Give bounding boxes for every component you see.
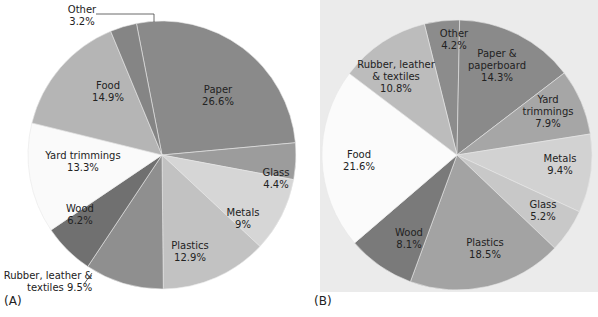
- pie-chart-b: Other 4.2% Paper & paperboard 14.3% Yard…: [305, 0, 598, 317]
- slice-value: 5.2%: [529, 211, 556, 223]
- slice-value: textiles 9.5%: [4, 282, 93, 294]
- slice-label-glass: Glass 4.4%: [262, 167, 289, 191]
- slice-value: 9%: [227, 219, 260, 231]
- slice-name: Yard trimmings: [45, 150, 120, 162]
- slice-name: Food: [343, 149, 375, 161]
- slice-value: 13.3%: [45, 162, 120, 174]
- slice-value: 10.8%: [357, 83, 435, 95]
- slice-label-paper: Paper 26.6%: [202, 84, 234, 108]
- slice-value: 8.1%: [395, 239, 423, 251]
- slice-value: 6.2%: [66, 215, 94, 227]
- slice-value: 14.3%: [468, 72, 526, 84]
- slice-name: Glass: [262, 167, 289, 179]
- slice-label-food: Food 21.6%: [343, 149, 375, 173]
- slice-name: Other: [68, 4, 96, 16]
- slice-value: 4.2%: [440, 40, 468, 52]
- slice-name: Glass: [529, 199, 556, 211]
- slice-value: 21.6%: [343, 161, 375, 173]
- slice-name: Metals: [227, 207, 260, 219]
- slice-value: 12.9%: [171, 252, 209, 264]
- panel-label-b: (B): [314, 294, 332, 308]
- slice-value: 7.9%: [523, 118, 574, 130]
- slice-value: 18.5%: [466, 249, 504, 261]
- slice-label-paper-paperboard: Paper & paperboard 14.3%: [468, 48, 526, 84]
- slice-name: Food: [92, 80, 124, 92]
- slice-name: Paper: [202, 84, 234, 96]
- slice-name: Yard: [523, 94, 574, 106]
- slice-value: 26.6%: [202, 96, 234, 108]
- slice-value: 4.4%: [262, 179, 289, 191]
- slice-name: Metals: [544, 153, 577, 165]
- pie-chart-a: Paper 26.6% Glass 4.4% Metals 9% Plastic…: [0, 0, 305, 317]
- slice-label-wood: Wood 6.2%: [66, 203, 94, 227]
- slice-name: Rubber, leather: [357, 59, 435, 71]
- slice-value: 9.4%: [544, 165, 577, 177]
- panel-label-a: (A): [4, 294, 22, 308]
- slice-value: paperboard: [468, 60, 526, 72]
- slice-label-yard-trimmings: Yard trimmings 13.3%: [45, 150, 120, 174]
- slice-value: 14.9%: [92, 92, 124, 104]
- slice-label-yard-trimmings: Yard trimmings 7.9%: [523, 94, 574, 130]
- slice-label-metals: Metals 9.4%: [544, 153, 577, 177]
- slice-label-other: Other 3.2%: [68, 4, 96, 28]
- slice-name: Rubber, leather &: [4, 270, 93, 282]
- slice-label-rubber-leather-textiles: Rubber, leather & textiles 10.8%: [357, 59, 435, 95]
- slice-name: Wood: [395, 227, 423, 239]
- slice-name: Other: [440, 28, 468, 40]
- slice-name: Wood: [66, 203, 94, 215]
- slice-name: Plastics: [466, 237, 504, 249]
- slice-label-other: Other 4.2%: [440, 28, 468, 52]
- slice-label-wood: Wood 8.1%: [395, 227, 423, 251]
- slice-label-plastics: Plastics 18.5%: [466, 237, 504, 261]
- slice-label-rubber: Rubber, leather & textiles 9.5%: [4, 270, 93, 294]
- slice-label-metals: Metals 9%: [227, 207, 260, 231]
- slice-value: trimmings: [523, 106, 574, 118]
- slice-name: Plastics: [171, 240, 209, 252]
- slice-label-glass: Glass 5.2%: [529, 199, 556, 223]
- slice-name: Paper &: [468, 48, 526, 60]
- slice-label-food: Food 14.9%: [92, 80, 124, 104]
- slice-label-plastics: Plastics 12.9%: [171, 240, 209, 264]
- leader-line-other: [96, 14, 154, 22]
- slice-value: & textiles: [357, 71, 435, 83]
- slice-value: 3.2%: [68, 16, 96, 28]
